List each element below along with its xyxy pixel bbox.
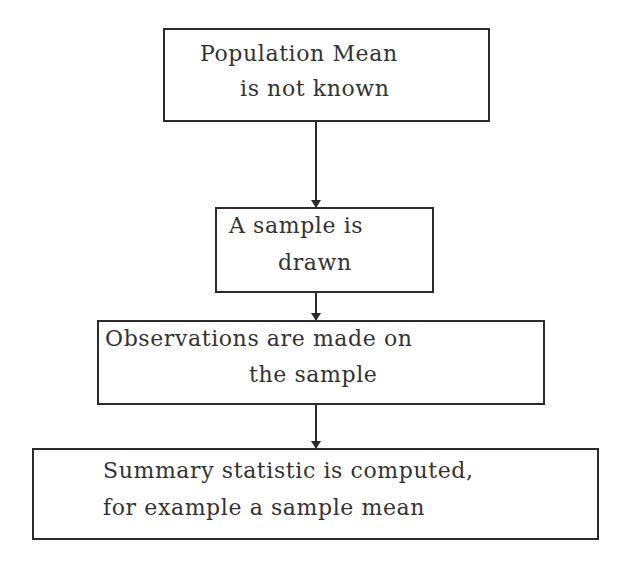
- arrow-down-icon: [315, 405, 317, 448]
- node-observations-line-2: the sample: [249, 362, 377, 388]
- node-summary-statistic-line-1: Summary statistic is computed,: [103, 458, 474, 484]
- node-observations-line-1: Observations are made on: [105, 326, 413, 352]
- arrow-down-icon: [315, 122, 317, 207]
- node-sample-drawn-line-1: A sample is: [229, 213, 363, 239]
- node-summary-statistic-line-2: for example a sample mean: [103, 495, 425, 521]
- node-sample-drawn-line-2: drawn: [278, 250, 352, 276]
- arrow-down-icon: [315, 293, 317, 320]
- node-population-mean-line-2: is not known: [240, 76, 390, 102]
- node-population-mean-line-1: Population Mean: [200, 41, 398, 67]
